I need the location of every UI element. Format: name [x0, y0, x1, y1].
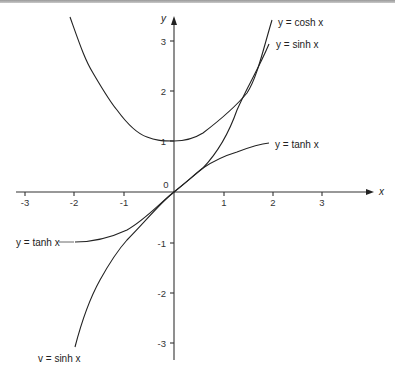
- y-axis-label: y: [160, 13, 167, 24]
- cosh-label-right: y = cosh x: [278, 17, 323, 28]
- y-tick-label: -2: [158, 288, 166, 299]
- y-tick-label: -3: [158, 338, 166, 349]
- tanh-label-right: y = tanh x: [275, 139, 319, 150]
- x-tick-label: -1: [120, 197, 128, 208]
- sinh-label-text: v = sinh x: [38, 353, 81, 364]
- figure-caption-cutoff: [60, 369, 260, 375]
- x-tick-label: -3: [21, 197, 29, 208]
- y-tick-label: -1: [158, 238, 166, 249]
- sinh-label-right: y = sinh x: [276, 39, 319, 50]
- origin-label: 0: [163, 179, 168, 190]
- sinh-curve: [75, 44, 269, 347]
- x-tick-label: 3: [319, 197, 324, 208]
- hyperbolic-functions-chart: -3 -2 -1 1 2 3 3 2 1 -1 -2 -3 0 x y y = …: [0, 0, 395, 375]
- sinh-label-left: v = sinh x: [38, 353, 81, 364]
- y-axis-arrow-icon: [171, 16, 177, 25]
- x-tick-labels: -3 -2 -1 1 2 3: [21, 197, 325, 208]
- axes: [16, 24, 368, 360]
- cosh-label-text: y = cosh x: [278, 17, 323, 28]
- tanh-label-left: y = tanh x: [16, 237, 60, 248]
- x-tick-label: 1: [221, 197, 226, 208]
- sinh-label-text: y = sinh x: [276, 39, 319, 50]
- tanh-label-text: y = tanh x: [16, 237, 60, 248]
- y-tick-label: 2: [161, 86, 166, 97]
- tanh-label-text: y = tanh x: [275, 139, 319, 150]
- x-tick-label: -2: [70, 197, 78, 208]
- x-tick-label: 2: [270, 197, 275, 208]
- y-tick-label: 3: [161, 36, 166, 47]
- cosh-curve: [70, 17, 272, 141]
- x-axis-label: x: [378, 186, 385, 197]
- x-axis-arrow-icon: [366, 189, 374, 195]
- y-tick-label: 1: [161, 136, 166, 147]
